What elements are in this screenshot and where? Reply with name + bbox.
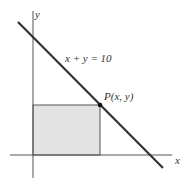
x-axis-label: x	[174, 154, 180, 166]
point-p	[98, 103, 103, 108]
diagram-canvas: y x x + y = 10 P(x, y)	[0, 0, 190, 186]
y-axis-label: y	[34, 8, 40, 20]
line-equation-label: x + y = 10	[64, 52, 112, 64]
point-label: P(x, y)	[103, 90, 134, 103]
shaded-rectangle	[33, 105, 100, 155]
